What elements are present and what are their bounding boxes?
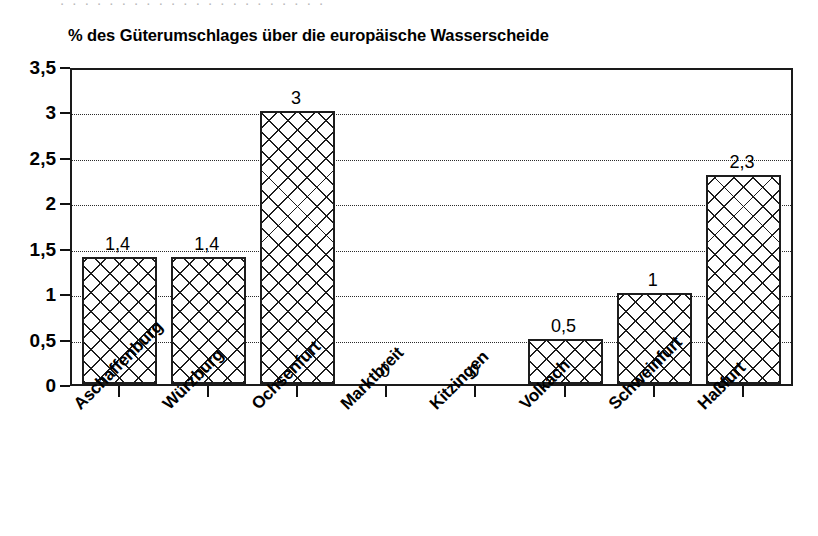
plot-area xyxy=(70,68,793,386)
x-axis-tick xyxy=(653,386,655,397)
x-axis-tick xyxy=(474,386,476,397)
x-axis-tick xyxy=(564,386,566,397)
y-axis-label: 3 xyxy=(4,103,56,122)
y-axis-label: 2 xyxy=(4,194,56,213)
bar-value-label: 1,4 xyxy=(167,235,247,253)
y-axis-label: 2,5 xyxy=(4,149,56,168)
y-axis-tick xyxy=(60,203,70,205)
chart-title: % des Güterumschlages über die europäisc… xyxy=(68,26,549,45)
bar-value-label: 2,3 xyxy=(702,153,782,171)
y-axis-tick xyxy=(60,158,70,160)
bar-value-label: 0,5 xyxy=(524,317,604,335)
y-axis-tick xyxy=(60,385,70,387)
y-axis-label: 0 xyxy=(4,376,56,395)
y-axis-tick xyxy=(60,112,70,114)
x-axis-tick xyxy=(118,386,120,397)
y-axis-tick xyxy=(60,340,70,342)
bar-chart: . . . . . . . . . . . . . . . . . . . . … xyxy=(0,0,818,536)
y-axis-label: 0,5 xyxy=(4,331,56,350)
gridline xyxy=(72,160,791,161)
y-axis-tick xyxy=(60,67,70,69)
bar xyxy=(706,175,781,384)
x-axis-tick xyxy=(742,386,744,397)
bar-value-label: 0 xyxy=(345,362,425,380)
x-axis-tick xyxy=(207,386,209,397)
bar-value-label: 1 xyxy=(613,271,693,289)
gridline xyxy=(72,114,791,115)
bleed-text: . . . . . . . . . . . . . . . . . . . . … xyxy=(60,0,325,8)
gridline xyxy=(72,205,791,206)
y-axis-label: 1 xyxy=(4,285,56,304)
bar-value-label: 1,4 xyxy=(78,235,158,253)
x-axis-tick xyxy=(296,386,298,397)
scan-bleed-artifact: . . . . . . . . . . . . . . . . . . . . … xyxy=(0,0,818,14)
y-axis-tick xyxy=(60,294,70,296)
y-axis-label: 1,5 xyxy=(4,240,56,259)
bar-value-label: 0 xyxy=(434,362,514,380)
bar xyxy=(260,111,335,384)
y-axis-tick xyxy=(60,249,70,251)
y-axis-label: 3,5 xyxy=(4,58,56,77)
bar-value-label: 3 xyxy=(256,89,336,107)
x-axis-tick xyxy=(385,386,387,397)
